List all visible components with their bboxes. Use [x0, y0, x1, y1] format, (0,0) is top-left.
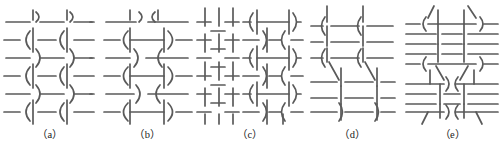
panel-caption-d: （d）: [339, 130, 365, 141]
panel-caption-c: （c）: [237, 130, 263, 141]
figure-panel-e: （e）: [400, 0, 503, 151]
weave-diagram-a: [0, 0, 100, 128]
weave-diagram-e: [400, 0, 503, 128]
panel-caption-b: （b）: [134, 130, 160, 141]
weave-diagram-c: [195, 0, 305, 128]
weave-diagram-d: [305, 0, 400, 128]
figure-panel-d: （d）: [305, 0, 400, 151]
panel-caption-a: （a）: [37, 130, 63, 141]
figure-panel-a: （a）: [0, 0, 100, 151]
figure-panel-b: （b）: [100, 0, 195, 151]
figure-panel-c: （c）: [195, 0, 305, 151]
weave-diagram-b: [100, 0, 195, 128]
panel-caption-e: （e）: [440, 130, 466, 141]
